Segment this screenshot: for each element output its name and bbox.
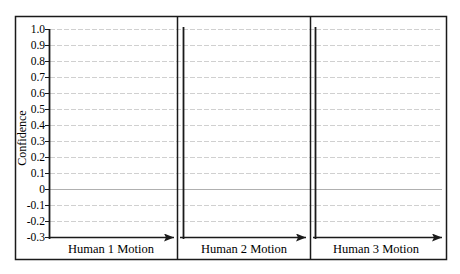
- y-tick-label: 0.7: [31, 71, 46, 83]
- confidence-chart: 1.00.90.80.70.60.50.40.30.20.10-0.1-0.2-…: [0, 0, 460, 274]
- panel-label-3: Human 3 Motion: [333, 242, 420, 256]
- panel-label-2: Human 2 Motion: [201, 242, 288, 256]
- y-tick-label: 0.8: [31, 55, 46, 67]
- y-tick-label: 0: [39, 183, 45, 195]
- y-tick-label: -0.1: [27, 199, 45, 211]
- y-tick-label: 0.2: [31, 151, 46, 163]
- y-tick-label: 0.6: [31, 87, 46, 99]
- gridlines: [50, 30, 442, 222]
- panel-label-1: Human 1 Motion: [68, 242, 155, 256]
- y-tick-label: 0.9: [31, 39, 46, 51]
- y-tick-label: -0.2: [27, 215, 45, 227]
- y-tick-label: 0.1: [31, 167, 46, 179]
- y-tick-label: 0.3: [31, 135, 46, 147]
- y-tick-label: 0.5: [31, 103, 46, 115]
- y-axis-label: Confidence: [15, 110, 29, 165]
- x-axis-labels: Human 1 MotionHuman 2 MotionHuman 3 Moti…: [68, 242, 420, 256]
- y-tick-label: 0.4: [31, 119, 46, 131]
- y-tick-label: -0.3: [27, 231, 45, 243]
- y-tick-label: 1.0: [31, 23, 46, 35]
- outer-frame: [16, 17, 447, 260]
- y-axis-ticks: 1.00.90.80.70.60.50.40.30.20.10-0.1-0.2-…: [27, 23, 49, 243]
- axes: [49, 27, 442, 239]
